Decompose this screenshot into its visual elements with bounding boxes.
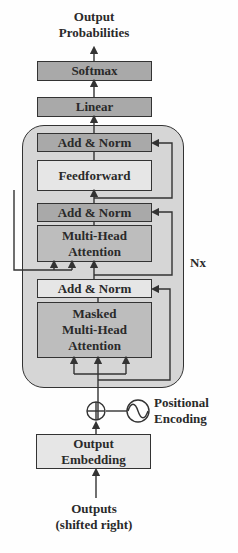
sine-wave-icon	[127, 400, 149, 422]
connectors	[0, 0, 238, 553]
circle-plus-icon	[87, 402, 105, 420]
